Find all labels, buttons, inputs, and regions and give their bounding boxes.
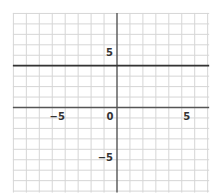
y-tick-label: −5: [98, 152, 113, 163]
axes: [13, 13, 209, 193]
x-tick-label: −5: [50, 111, 65, 122]
coordinate-plane: −5055−5: [0, 0, 218, 196]
y-tick-label: 5: [106, 47, 113, 58]
x-tick-label: 5: [183, 111, 190, 122]
grid-lines: [13, 13, 209, 193]
x-tick-label: 0: [107, 111, 114, 122]
